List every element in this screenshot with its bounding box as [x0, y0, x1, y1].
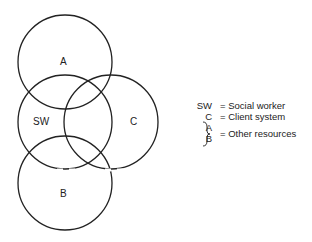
circle-c	[64, 75, 158, 169]
label-b: B	[60, 188, 67, 200]
legend-key: C	[190, 111, 212, 122]
legend-group-value: = Other resources	[220, 128, 296, 139]
legend-key: B	[190, 133, 212, 144]
label-c: C	[130, 116, 137, 128]
label-a: A	[60, 56, 67, 68]
label-sw: SW	[33, 116, 49, 128]
circle-b	[18, 136, 112, 230]
legend-value: = Social worker	[220, 100, 285, 111]
legend-key: SW	[190, 100, 212, 111]
legend-key: A	[190, 122, 212, 133]
legend-value: = Client system	[220, 111, 285, 122]
